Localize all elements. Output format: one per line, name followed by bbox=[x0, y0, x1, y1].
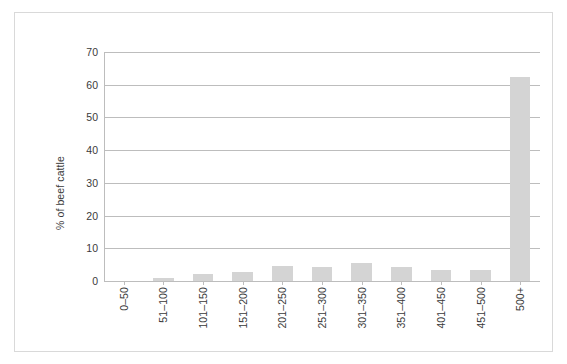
bar bbox=[470, 270, 491, 281]
x-tick-label: 301–350 bbox=[356, 287, 368, 329]
x-tick-mark bbox=[441, 281, 442, 285]
x-tick-mark bbox=[481, 281, 482, 285]
x-tick: 0–50 bbox=[104, 281, 144, 361]
bar bbox=[510, 77, 531, 281]
gridline-60 bbox=[104, 85, 540, 86]
x-tick: 101–150 bbox=[183, 281, 223, 361]
x-tick-label: 451–500 bbox=[475, 287, 487, 329]
x-tick-label: 151–200 bbox=[237, 287, 249, 329]
x-tick: 451–500 bbox=[461, 281, 501, 361]
x-tick-label: 500+ bbox=[514, 287, 526, 311]
y-tick-label: 10 bbox=[58, 243, 98, 254]
x-tick-label: 201–250 bbox=[276, 287, 288, 329]
y-tick-label: 40 bbox=[58, 145, 98, 156]
x-tick-mark bbox=[520, 281, 521, 285]
x-tick-mark bbox=[322, 281, 323, 285]
x-tick-label: 351–400 bbox=[395, 287, 407, 329]
x-tick: 51–100 bbox=[144, 281, 184, 361]
gridline-70 bbox=[104, 52, 540, 53]
y-axis-tick-labels: 010203040506070 bbox=[54, 52, 98, 281]
gridline-50 bbox=[104, 117, 540, 118]
y-tick-label: 30 bbox=[58, 178, 98, 189]
x-tick: 401–450 bbox=[421, 281, 461, 361]
y-tick-label: 20 bbox=[58, 211, 98, 222]
gridline-20 bbox=[104, 216, 540, 217]
chart-figure: % of beef cattle 010203040506070 0–5051–… bbox=[0, 0, 567, 364]
x-tick-mark bbox=[163, 281, 164, 285]
x-tick: 351–400 bbox=[381, 281, 421, 361]
y-tick-label: 60 bbox=[58, 80, 98, 91]
x-tick-label: 251–300 bbox=[316, 287, 328, 329]
bar bbox=[312, 267, 333, 281]
x-tick-mark bbox=[282, 281, 283, 285]
x-tick: 151–200 bbox=[223, 281, 263, 361]
bar bbox=[351, 263, 372, 281]
x-tick-mark bbox=[362, 281, 363, 285]
x-tick-mark bbox=[203, 281, 204, 285]
gridline-40 bbox=[104, 150, 540, 151]
plot-area bbox=[104, 52, 540, 281]
bar bbox=[272, 266, 293, 281]
bar bbox=[391, 267, 412, 281]
bar bbox=[232, 272, 253, 281]
x-tick-label: 401–450 bbox=[435, 287, 447, 329]
x-tick-mark bbox=[243, 281, 244, 285]
x-tick: 301–350 bbox=[342, 281, 382, 361]
gridline-10 bbox=[104, 248, 540, 249]
x-axis-tick-labels: 0–5051–100101–150151–200201–250251–30030… bbox=[104, 281, 540, 361]
x-tick: 500+ bbox=[500, 281, 540, 361]
x-tick-label: 101–150 bbox=[197, 287, 209, 329]
y-tick-label: 50 bbox=[58, 112, 98, 123]
bar bbox=[431, 270, 452, 281]
x-tick: 201–250 bbox=[263, 281, 303, 361]
y-tick-label: 70 bbox=[58, 47, 98, 58]
gridline-30 bbox=[104, 183, 540, 184]
x-tick-mark bbox=[124, 281, 125, 285]
x-tick-label: 51–100 bbox=[157, 287, 169, 323]
x-tick-mark bbox=[401, 281, 402, 285]
x-tick-label: 0–50 bbox=[118, 287, 130, 311]
x-tick: 251–300 bbox=[302, 281, 342, 361]
y-tick-label: 0 bbox=[58, 276, 98, 287]
